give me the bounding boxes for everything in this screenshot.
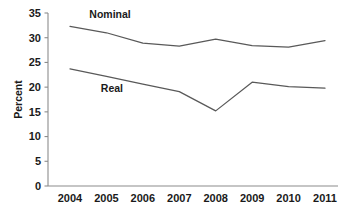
- line-chart: 05101520253035 2004200520062007200820092…: [0, 0, 356, 217]
- y-axis-title: Percent: [12, 80, 24, 119]
- y-axis-title-text: Percent: [12, 80, 24, 119]
- series-label-real: Real: [101, 82, 123, 94]
- y-tick-label-20: 20: [29, 81, 41, 93]
- y-tick-label-5: 5: [35, 155, 41, 167]
- y-tick-label-10: 10: [29, 130, 41, 142]
- y-tick-label-30: 30: [29, 32, 41, 44]
- x-tick-label-2007: 2007: [167, 192, 191, 204]
- y-tick-label-0: 0: [35, 180, 41, 192]
- y-tick-label-25: 25: [29, 56, 41, 68]
- x-tick-label-2009: 2009: [240, 192, 264, 204]
- x-tick-label-2004: 2004: [58, 192, 83, 204]
- series-label-nominal: Nominal: [89, 8, 131, 20]
- y-tick-label-15: 15: [29, 106, 41, 118]
- plot-background: [0, 0, 356, 217]
- x-tick-label-2010: 2010: [276, 192, 300, 204]
- x-tick-label-2006: 2006: [131, 192, 155, 204]
- y-tick-label-35: 35: [29, 7, 41, 19]
- x-tick-label-2011: 2011: [313, 192, 337, 204]
- x-tick-label-2008: 2008: [203, 192, 227, 204]
- chart-container: 05101520253035 2004200520062007200820092…: [0, 0, 356, 217]
- x-tick-label-2005: 2005: [94, 192, 118, 204]
